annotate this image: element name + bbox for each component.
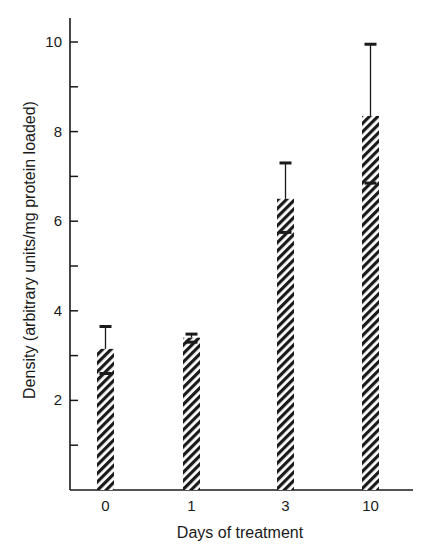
x-axis-tick-labels: 01310 (101, 497, 379, 514)
y-axis-ticks: 246810 (45, 33, 78, 445)
axes (70, 18, 413, 490)
x-tick-label: 3 (281, 497, 289, 514)
y-tick-label: 6 (54, 212, 62, 229)
bar (362, 116, 379, 490)
x-tick-label: 10 (362, 497, 379, 514)
bar (277, 199, 294, 490)
bars (97, 44, 379, 490)
bar (183, 338, 200, 490)
bar (97, 349, 114, 490)
y-axis-title: Density (arbitrary units/mg protein load… (21, 101, 38, 399)
y-tick-label: 8 (54, 123, 62, 140)
bar-group-day-10 (362, 44, 379, 490)
y-tick-label: 10 (45, 33, 62, 50)
bar-group-day-0 (97, 326, 114, 490)
y-tick-label: 2 (54, 391, 62, 408)
bar-group-day-3 (277, 163, 294, 490)
y-tick-label: 4 (54, 302, 62, 319)
x-tick-label: 0 (101, 497, 109, 514)
x-axis-title: Days of treatment (177, 524, 304, 541)
x-tick-label: 1 (187, 497, 195, 514)
bar-chart: 246810 01310 Days of treatment Density (… (0, 0, 427, 555)
bar-group-day-1 (183, 334, 200, 490)
